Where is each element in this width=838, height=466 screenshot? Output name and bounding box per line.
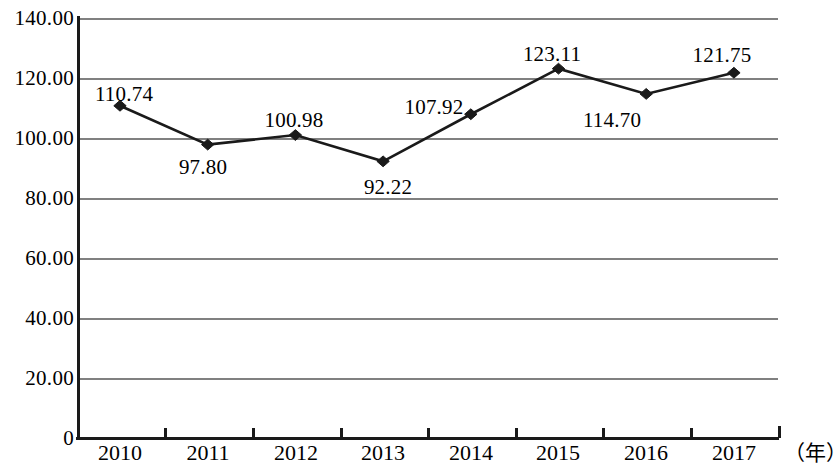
data-label-2015: 123.11 (523, 44, 581, 65)
data-label-2017: 121.75 (693, 45, 752, 66)
data-label-2011: 97.80 (179, 157, 227, 178)
data-point-marker (728, 67, 740, 78)
data-label-2010: 110.74 (95, 84, 153, 105)
data-label-2013: 92.22 (364, 177, 412, 198)
data-label-2012: 100.98 (265, 110, 324, 131)
data-point-marker (640, 89, 652, 100)
data-point-marker (202, 139, 214, 150)
data-label-2014: 107.92 (405, 97, 464, 118)
data-label-2016: 114.70 (583, 110, 641, 131)
